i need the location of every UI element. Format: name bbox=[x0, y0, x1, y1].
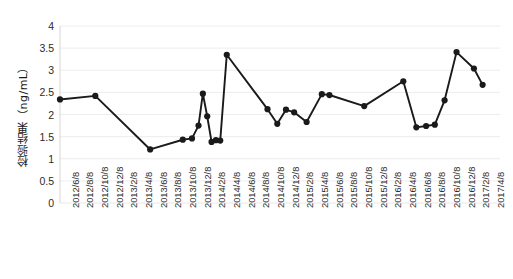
x-axis-tick-label: 2015/12/8 bbox=[379, 167, 389, 208]
x-axis-tick-label: 2013/8/8 bbox=[173, 172, 183, 208]
x-axis-tick-labels: 2012/6/82012/8/82012/10/82012/12/82013/2… bbox=[0, 0, 513, 279]
x-axis-tick-label: 2016/8/8 bbox=[437, 172, 447, 208]
x-axis-tick-label: 2013/12/8 bbox=[203, 167, 213, 208]
x-axis-tick-label: 2015/2/8 bbox=[305, 172, 315, 208]
x-axis-tick-label: 2016/6/8 bbox=[423, 172, 433, 208]
x-axis-tick-label: 2016/10/8 bbox=[452, 167, 462, 208]
x-axis-tick-label: 2016/4/8 bbox=[408, 172, 418, 208]
x-axis-tick-label: 2014/4/8 bbox=[232, 172, 242, 208]
x-axis-tick-label: 2016/2/8 bbox=[393, 172, 403, 208]
x-axis-tick-label: 2013/10/8 bbox=[188, 167, 198, 208]
x-axis-tick-label: 2012/10/8 bbox=[100, 167, 110, 208]
x-axis-tick-label: 2015/4/8 bbox=[320, 172, 330, 208]
x-axis-tick-label: 2012/6/8 bbox=[71, 172, 81, 208]
x-axis-tick-label: 2017/4/8 bbox=[496, 172, 506, 208]
x-axis-tick-label: 2017/2/8 bbox=[481, 172, 491, 208]
x-axis-tick-label: 2014/2/8 bbox=[217, 172, 227, 208]
x-axis-tick-label: 2013/2/8 bbox=[129, 172, 139, 208]
x-axis-tick-label: 2012/12/8 bbox=[115, 167, 125, 208]
x-axis-tick-label: 2015/8/8 bbox=[349, 172, 359, 208]
line-chart: 检验结果（ng/mL） 00.511.522.533.54 2012/6/820… bbox=[0, 0, 513, 279]
x-axis-tick-label: 2013/4/8 bbox=[144, 172, 154, 208]
x-axis-tick-label: 2015/6/8 bbox=[335, 172, 345, 208]
x-axis-tick-label: 2015/10/8 bbox=[364, 167, 374, 208]
x-axis-tick-label: 2014/6/8 bbox=[247, 172, 257, 208]
x-axis-tick-label: 2016/12/8 bbox=[467, 167, 477, 208]
x-axis-tick-label: 2014/8/8 bbox=[261, 172, 271, 208]
x-axis-tick-label: 2013/6/8 bbox=[159, 172, 169, 208]
x-axis-tick-label: 2014/10/8 bbox=[276, 167, 286, 208]
x-axis-tick-label: 2014/12/8 bbox=[291, 167, 301, 208]
x-axis-tick-label: 2012/8/8 bbox=[85, 172, 95, 208]
